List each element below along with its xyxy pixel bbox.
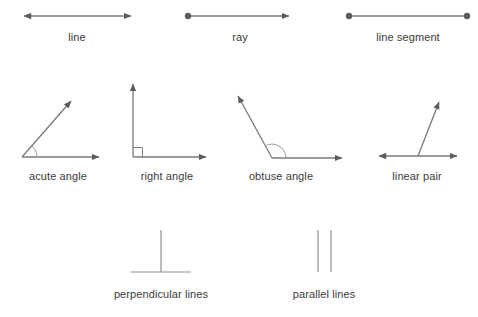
acute-diagonal-ray bbox=[22, 101, 71, 157]
geometry-diagram: line ray line segment acute angle right … bbox=[0, 0, 478, 317]
label-line-segment: line segment bbox=[376, 31, 440, 43]
segment-endpoint-dot-left bbox=[346, 13, 352, 19]
label-right-angle: right angle bbox=[141, 170, 193, 182]
figure-perpendicular-lines bbox=[131, 230, 191, 272]
linear-pair-upward-ray bbox=[418, 102, 439, 156]
figures-canvas bbox=[0, 0, 478, 317]
figure-line-segment bbox=[346, 13, 470, 19]
figure-ray bbox=[185, 13, 289, 19]
label-ray: ray bbox=[232, 31, 248, 43]
figure-right-angle bbox=[133, 84, 206, 157]
figure-parallel-lines bbox=[318, 230, 331, 272]
label-perpendicular-lines: perpendicular lines bbox=[114, 288, 208, 300]
label-parallel-lines: parallel lines bbox=[293, 288, 356, 300]
label-linear-pair: linear pair bbox=[392, 170, 441, 182]
label-line: line bbox=[68, 31, 86, 43]
label-obtuse-angle: obtuse angle bbox=[249, 170, 313, 182]
right-angle-square-marker bbox=[133, 148, 143, 158]
ray-endpoint-dot bbox=[185, 13, 191, 19]
label-acute-angle: acute angle bbox=[29, 170, 87, 182]
figure-linear-pair bbox=[379, 102, 457, 156]
segment-endpoint-dot-right bbox=[464, 13, 470, 19]
obtuse-diagonal-ray bbox=[238, 96, 272, 158]
figure-obtuse-angle bbox=[238, 96, 342, 158]
acute-angle-arc-marker bbox=[32, 146, 37, 157]
figure-acute-angle bbox=[22, 101, 99, 157]
